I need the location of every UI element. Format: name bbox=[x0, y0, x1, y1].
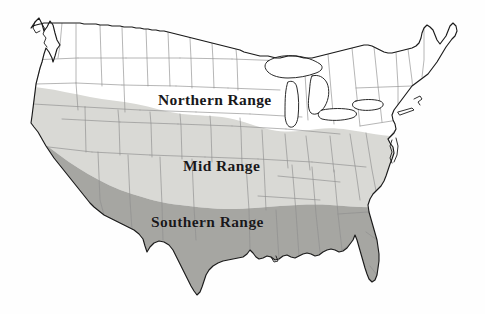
us-range-map-svg bbox=[0, 0, 485, 314]
cape-cod-detail bbox=[414, 96, 422, 105]
range-band-fills bbox=[0, 0, 485, 314]
lake-ontario-shape bbox=[352, 100, 383, 111]
lake-michigan-shape bbox=[285, 81, 299, 127]
range-map: Northern Range Mid Range Southern Range bbox=[0, 0, 485, 314]
long-island-detail bbox=[398, 108, 414, 115]
lake-erie-shape bbox=[318, 109, 356, 121]
delmarva-detail bbox=[394, 138, 398, 162]
